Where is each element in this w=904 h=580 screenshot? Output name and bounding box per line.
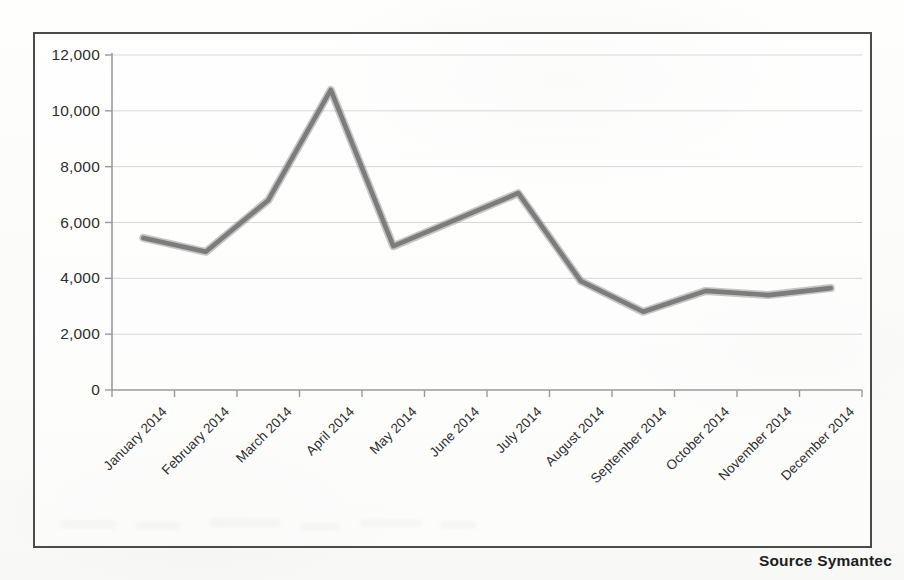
y-tick-label: 4,000 [60, 269, 100, 287]
source-annotation: Source Symantec [759, 552, 892, 570]
y-tick-label: 8,000 [60, 158, 100, 176]
y-tick-label: 10,000 [51, 102, 100, 120]
chart-frame [33, 32, 872, 548]
y-tick-label: 6,000 [60, 214, 100, 232]
y-tick-label: 12,000 [51, 46, 100, 64]
y-tick-label: 2,000 [60, 325, 100, 343]
y-tick-label: 0 [91, 381, 100, 399]
